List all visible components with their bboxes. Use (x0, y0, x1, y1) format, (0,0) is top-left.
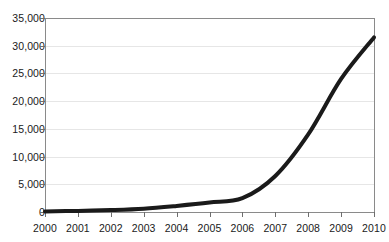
data-series-line (0, 0, 389, 242)
line-chart: 05,00010,00015,00020,00025,00030,00035,0… (0, 0, 389, 242)
series-path (45, 37, 374, 211)
